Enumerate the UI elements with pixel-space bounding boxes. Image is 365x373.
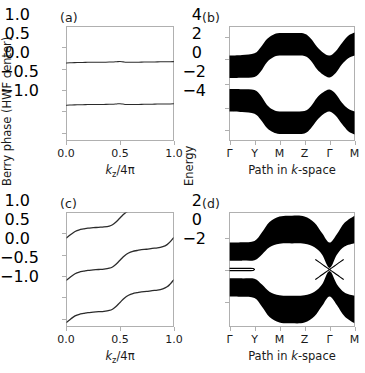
kpath-tick-Γ: Γ	[226, 333, 232, 346]
kpath-tick-Y: Y	[251, 147, 258, 160]
panel-c-xlabel: kz/4π	[105, 349, 134, 365]
kpath-tick-Γ: Γ	[326, 333, 332, 346]
panel-d-ytick-0: 2	[182, 191, 202, 210]
panel-d-ytick-2: −2	[182, 229, 206, 248]
kpath-tick-M: M	[275, 333, 285, 346]
panel-d-ytick-1: 0	[182, 210, 202, 229]
kpath-tick-Γ: Γ	[226, 147, 232, 160]
panel-c-ylabel: Berry phase (HWF center)	[0, 4, 14, 186]
panel-c: (c) Berry phase (HWF center) 1.0 0.5 0.0…	[0, 186, 182, 373]
kpath-tick-Z: Z	[301, 333, 309, 346]
panel-a-xtick-0: 0.0	[57, 147, 75, 160]
figure-canvas: (a) Berry phase (HWF center) 1.0 0.5 0.0…	[0, 0, 365, 373]
panel-c-xtick-1: 0.5	[111, 333, 129, 346]
kpath-tick-M: M	[350, 333, 360, 346]
panel-c-ytick-1: 0.5	[0, 210, 30, 229]
panel-d: (d) Energy 2 0 −2 ΓYMZΓM Path in k-space	[182, 186, 365, 373]
panel-c-ytick-2: 0.0	[0, 229, 30, 248]
kpath-tick-M: M	[350, 147, 360, 160]
kpath-tick-Y: Y	[251, 333, 258, 346]
kpath-tick-Γ: Γ	[326, 147, 332, 160]
panel-c-ytick-3: −0.5	[0, 248, 34, 267]
panel-c-ytick-0: 1.0	[0, 191, 30, 210]
kpath-tick-M: M	[275, 147, 285, 160]
panel-a-xtick-1: 0.5	[111, 147, 129, 160]
panel-a: (a) Berry phase (HWF center) 1.0 0.5 0.0…	[0, 0, 182, 187]
panel-b-xlabel: Path in k-space	[248, 163, 336, 177]
panel-b: (b) Energy 4 2 0 −2 −4 ΓYMZΓM Path in k-…	[182, 0, 365, 187]
panel-d-xlabel: Path in k-space	[248, 349, 336, 363]
panel-b-bands	[182, 0, 365, 187]
kpath-tick-Z: Z	[301, 147, 309, 160]
panel-a-xlabel: kz/4π	[105, 163, 134, 179]
panel-a-xtick-2: 1.0	[165, 147, 183, 160]
panel-d-bands	[182, 186, 365, 373]
panel-c-ytick-4: −1.0	[0, 267, 34, 286]
panel-d-ylabel: Energy	[182, 3, 196, 186]
panel-c-xtick-0: 0.0	[57, 333, 75, 346]
panel-c-xtick-2: 1.0	[165, 333, 183, 346]
